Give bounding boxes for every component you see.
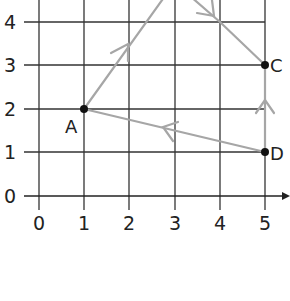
point-c bbox=[261, 61, 269, 69]
point-label-c: C bbox=[270, 55, 283, 76]
svg-text:0: 0 bbox=[4, 185, 16, 207]
svg-text:4: 4 bbox=[214, 212, 226, 234]
path bbox=[84, 0, 274, 152]
svg-text:2: 2 bbox=[123, 212, 135, 234]
point-a bbox=[80, 105, 88, 113]
svg-text:3: 3 bbox=[169, 212, 181, 234]
svg-text:3: 3 bbox=[4, 54, 16, 76]
point-d bbox=[261, 148, 269, 156]
axis-arrow-icon bbox=[282, 192, 290, 200]
point-label-d: D bbox=[270, 143, 284, 164]
x-tick-labels: 0 1 2 3 4 5 bbox=[33, 212, 271, 234]
x-axis bbox=[24, 192, 290, 200]
svg-text:5: 5 bbox=[259, 212, 271, 234]
svg-text:1: 1 bbox=[4, 141, 16, 163]
svg-text:0: 0 bbox=[33, 212, 45, 234]
svg-text:2: 2 bbox=[4, 98, 16, 120]
svg-text:4: 4 bbox=[4, 11, 16, 33]
y-tick-labels: 4 3 2 1 0 bbox=[4, 11, 16, 207]
coordinate-grid-diagram: A C D 4 3 2 1 0 0 1 2 3 4 5 bbox=[0, 0, 290, 301]
point-label-a: A bbox=[65, 116, 78, 137]
svg-text:1: 1 bbox=[78, 212, 90, 234]
